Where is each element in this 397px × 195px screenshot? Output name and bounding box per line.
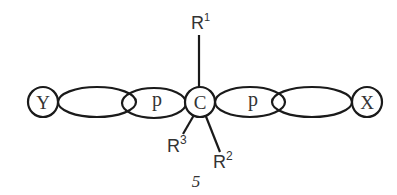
r3-base: R bbox=[167, 136, 180, 156]
bond-r3 bbox=[183, 115, 194, 134]
orbital-diagram: Y C X p p R1 R3 R2 5 bbox=[0, 0, 397, 195]
r1-label: R1 bbox=[191, 11, 210, 33]
atom-x-label: X bbox=[360, 92, 374, 113]
figure-number: 5 bbox=[192, 172, 201, 191]
r2-base: R bbox=[213, 152, 226, 172]
atom-y-label: Y bbox=[36, 92, 50, 113]
r2-label: R2 bbox=[213, 149, 233, 172]
r2-sup: 2 bbox=[226, 149, 233, 163]
left-outer-lobe bbox=[58, 87, 136, 117]
r3-label: R3 bbox=[167, 133, 187, 156]
right-p-label: p bbox=[248, 88, 258, 111]
left-p-label: p bbox=[152, 88, 162, 111]
r1-sup: 1 bbox=[204, 11, 210, 23]
r1-base: R bbox=[191, 13, 204, 33]
atom-c-label: C bbox=[194, 92, 207, 113]
bond-r2 bbox=[205, 114, 220, 152]
r3-sup: 3 bbox=[180, 133, 187, 147]
